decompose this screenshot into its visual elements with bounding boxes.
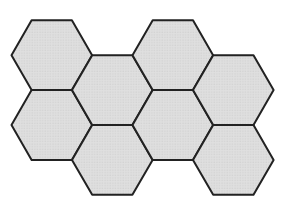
hexagon-figure-svg bbox=[0, 0, 287, 217]
hexagon-tessellation-figure bbox=[0, 0, 287, 217]
hexagon-group bbox=[12, 20, 274, 195]
